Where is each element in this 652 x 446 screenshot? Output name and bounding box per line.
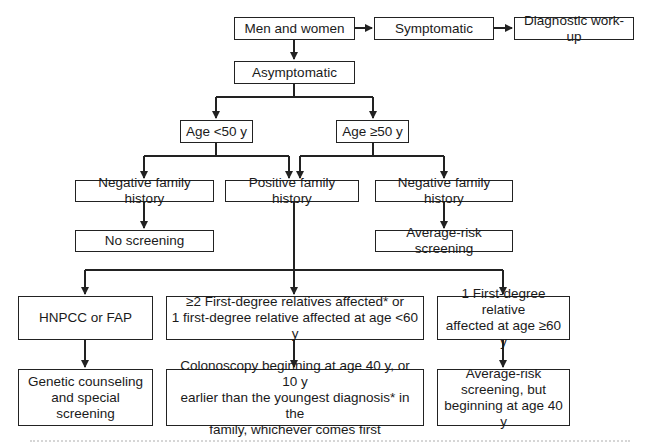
node-hnpcc-or-fap: HNPCC or FAP xyxy=(18,296,153,340)
node-diagnostic-work-up: Diagnostic work-up xyxy=(514,17,634,40)
node-genetic-counseling: Genetic counseling and special screening xyxy=(18,369,153,426)
node-label-line-2: affected at age ≥60 y xyxy=(442,318,565,350)
node-label: Negative family history xyxy=(380,175,508,207)
node-no-screening: No screening xyxy=(75,230,214,252)
node-one-relative-60-plus: 1 First-degree relative affected at age … xyxy=(437,296,570,340)
node-label-line-3: family, whichever comes first xyxy=(209,422,381,438)
node-label: Age ≥50 y xyxy=(342,124,403,140)
node-label: HNPCC or FAP xyxy=(39,310,132,326)
node-negative-family-history-left: Negative family history xyxy=(75,180,214,202)
node-label: Asymptomatic xyxy=(252,65,337,81)
node-age-under-50: Age <50 y xyxy=(180,120,253,143)
node-colonoscopy-at-40: Colonoscopy beginning at age 40 y, or 10… xyxy=(166,369,424,426)
node-age-50-plus: Age ≥50 y xyxy=(336,120,409,143)
node-label: Negative family history xyxy=(80,175,209,207)
node-symptomatic: Symptomatic xyxy=(374,17,494,40)
node-label: No screening xyxy=(105,233,185,249)
node-label-line-1: ≥2 First-degree relatives affected* or xyxy=(186,294,404,310)
node-label-line-1: Colonoscopy beginning at age 40 y, or 10… xyxy=(171,358,419,390)
node-label: Age <50 y xyxy=(186,124,247,140)
node-negative-family-history-right: Negative family history xyxy=(375,180,513,202)
node-average-risk-screening: Average-risk screening xyxy=(375,230,513,252)
node-average-risk-from-40: Average-risk screening, but beginning at… xyxy=(437,369,570,426)
node-label-line-1: 1 First-degree relative xyxy=(442,286,565,318)
node-label: Average-risk screening xyxy=(380,225,508,257)
node-label: Positive family history xyxy=(230,175,354,207)
node-label: Symptomatic xyxy=(395,21,473,37)
cropped-caption-edge xyxy=(30,440,630,446)
node-label-line-2: 1 first-degree relative affected at age … xyxy=(171,310,419,342)
node-positive-family-history: Positive family history xyxy=(225,180,359,202)
node-label-line-1: Genetic counseling xyxy=(28,374,143,390)
node-label-line-2: earlier than the youngest diagnosis* in … xyxy=(171,390,419,422)
node-two-or-more-relatives: ≥2 First-degree relatives affected* or 1… xyxy=(166,296,424,340)
node-label: Men and women xyxy=(245,21,345,37)
node-label-line-2: and special screening xyxy=(23,390,148,422)
node-label-line-3: beginning at age 40 y xyxy=(442,398,565,430)
node-label: Diagnostic work-up xyxy=(519,13,629,45)
node-asymptomatic: Asymptomatic xyxy=(234,61,355,84)
node-men-and-women: Men and women xyxy=(234,17,355,40)
node-label-line-1: Average-risk xyxy=(466,366,542,382)
node-label-line-2: screening, but xyxy=(461,382,546,398)
